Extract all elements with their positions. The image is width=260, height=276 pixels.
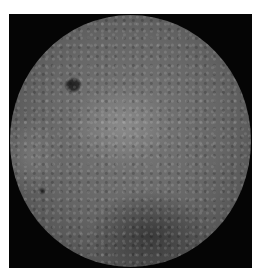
moon-image [10,15,251,267]
photo-frame [9,14,252,268]
crater-texture [10,15,251,267]
